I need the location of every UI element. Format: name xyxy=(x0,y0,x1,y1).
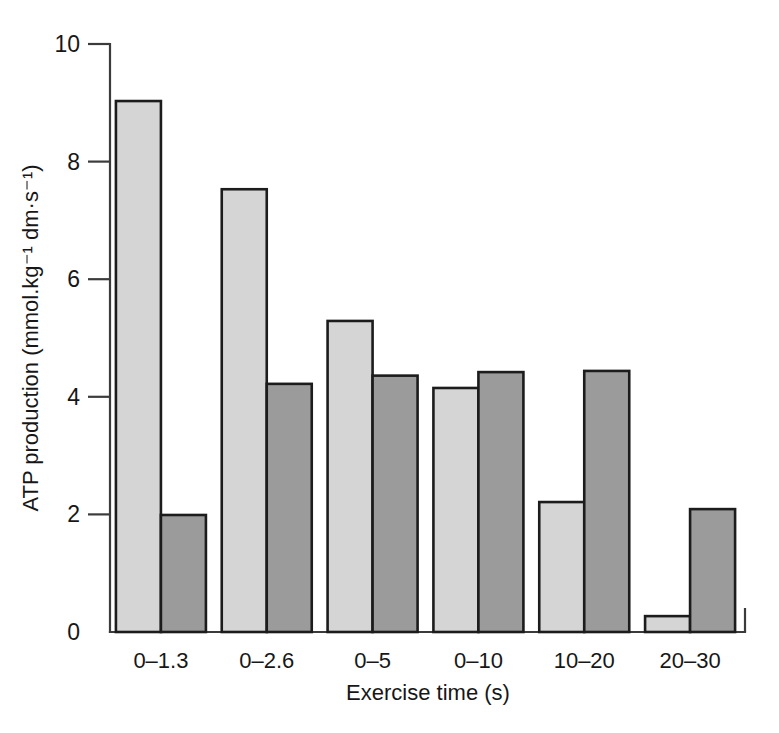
x-tick-label-5: 20–30 xyxy=(659,648,720,673)
bar-dark-series-5 xyxy=(690,509,735,632)
bar-dark-series-4 xyxy=(584,371,629,632)
bar-light-series-5 xyxy=(645,616,690,632)
bar-light-series-3 xyxy=(433,388,478,632)
bar-dark-series-3 xyxy=(478,372,523,632)
chart-figure: 10 8 6 4 2 0 0–1.30–2.60–50–1010–2020–30… xyxy=(0,0,779,733)
bar-light-series-4 xyxy=(539,502,584,632)
bar-dark-series-2 xyxy=(373,376,418,632)
bar-light-series-1 xyxy=(222,189,267,632)
y-tick-label-0: 0 xyxy=(67,619,80,645)
bar-light-series-0 xyxy=(116,101,161,632)
y-axis-title: ATP production (mmol.kg⁻¹ dm·s⁻¹) xyxy=(18,164,43,511)
x-tick-label-0: 0–1.3 xyxy=(133,648,188,673)
category-labels: 0–1.30–2.60–50–1010–2020–30 xyxy=(133,648,720,673)
y-tick-label-4: 4 xyxy=(67,384,80,410)
x-tick-label-3: 0–10 xyxy=(454,648,503,673)
y-tick-label-8: 8 xyxy=(67,149,80,175)
x-axis-title: Exercise time (s) xyxy=(346,680,510,705)
y-tick-label-2: 2 xyxy=(67,501,80,527)
bar-chart: 10 8 6 4 2 0 0–1.30–2.60–50–1010–2020–30… xyxy=(0,0,779,733)
x-tick-label-1: 0–2.6 xyxy=(239,648,294,673)
bar-dark-series-1 xyxy=(267,384,312,632)
bar-light-series-2 xyxy=(328,321,373,632)
bars-layer xyxy=(116,101,735,632)
y-axis-ticks xyxy=(88,44,110,514)
x-tick-label-2: 0–5 xyxy=(354,648,391,673)
x-tick-label-4: 10–20 xyxy=(554,648,615,673)
bar-dark-series-0 xyxy=(161,515,206,632)
y-tick-label-10: 10 xyxy=(54,31,80,57)
y-tick-label-6: 6 xyxy=(67,266,80,292)
